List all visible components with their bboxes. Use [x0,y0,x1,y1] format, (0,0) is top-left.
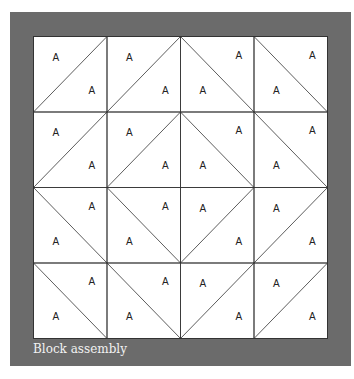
patch-label: A [309,125,316,136]
patch-label: A [200,160,207,171]
patch-label: A [162,276,169,287]
patch-label: A [126,236,133,247]
patch-label: A [200,278,207,289]
patch-label: A [53,236,60,247]
patch-label: A [273,278,280,289]
patch-label: A [236,236,243,247]
caption: Block assembly [33,342,127,356]
patch-label: A [273,203,280,214]
patch-label: A [53,52,60,63]
patch-label: A [126,127,133,138]
patch-label: A [200,85,207,96]
patch-label: A [162,85,169,96]
patch-label: A [53,127,60,138]
patch-label: A [126,52,133,63]
patch-label: A [162,160,169,171]
patch-label: A [89,85,96,96]
patch-label: A [236,311,243,322]
patch-label: A [89,160,96,171]
patch-label: A [236,50,243,61]
patch-label: A [126,311,133,322]
patch-label: A [89,201,96,212]
patch-label: A [309,236,316,247]
patch-label: A [89,276,96,287]
patch-label: A [53,311,60,322]
patch-label: A [309,50,316,61]
patch-label: A [236,125,243,136]
patch-label: A [200,203,207,214]
block-grid: AAAAAAAAAAAAAAAAAAAAAAAAAAAAAAAA [33,36,328,339]
patch-label: A [309,311,316,322]
patch-label: A [273,85,280,96]
patch-label: A [162,201,169,212]
patch-label: A [273,160,280,171]
